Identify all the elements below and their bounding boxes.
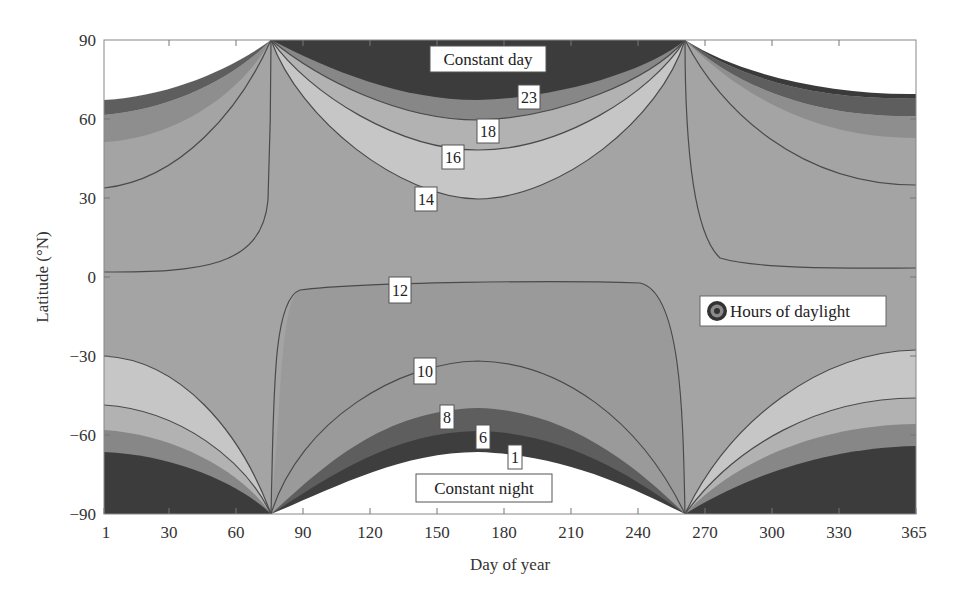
svg-text:Constant night: Constant night — [434, 479, 534, 498]
y-tick-label: −60 — [69, 426, 96, 445]
svg-text:8: 8 — [443, 409, 451, 426]
y-tick-label: 90 — [79, 31, 96, 50]
y-tick-label: −90 — [69, 505, 96, 524]
x-tick-label: 270 — [692, 523, 718, 542]
contour-label-1: 1 — [508, 445, 522, 469]
y-tick-label: 60 — [79, 110, 96, 129]
constant-night-label: Constant night — [416, 474, 552, 502]
x-tick-label: 300 — [759, 523, 785, 542]
svg-text:12: 12 — [392, 282, 408, 299]
svg-text:14: 14 — [418, 191, 434, 208]
svg-text:1: 1 — [511, 449, 519, 466]
x-tick-label: 30 — [161, 523, 178, 542]
x-tick-label: 1 — [102, 523, 111, 542]
svg-text:23: 23 — [521, 89, 537, 106]
x-tick-label: 120 — [357, 523, 383, 542]
svg-text:10: 10 — [417, 363, 433, 380]
x-tick-label: 90 — [295, 523, 312, 542]
legend-label: Hours of daylight — [730, 302, 850, 321]
y-tick-label: 0 — [88, 268, 97, 287]
contour-label-23: 23 — [518, 85, 540, 109]
legend: Hours of daylight — [700, 296, 886, 326]
y-tick-labels: 90 60 30 0 −30 −60 −90 — [69, 31, 96, 524]
x-tick-label: 210 — [558, 523, 584, 542]
contour-label-18: 18 — [477, 119, 499, 143]
x-axis-title: Day of year — [470, 555, 551, 574]
x-tick-label: 365 — [901, 523, 927, 542]
contour-label-8: 8 — [440, 405, 454, 429]
svg-text:16: 16 — [445, 149, 461, 166]
plot-area — [104, 40, 916, 514]
y-tick-label: 30 — [79, 189, 96, 208]
svg-text:18: 18 — [480, 123, 496, 140]
contour-label-16: 16 — [442, 145, 464, 169]
x-tick-label: 150 — [424, 523, 450, 542]
contour-label-6: 6 — [476, 425, 490, 449]
svg-text:Constant day: Constant day — [443, 50, 533, 69]
x-tick-label: 330 — [826, 523, 852, 542]
daylight-contour-chart: 1 30 60 90 120 150 180 210 240 270 300 3… — [0, 0, 953, 595]
legend-target-icon — [707, 301, 727, 321]
contour-label-14: 14 — [415, 187, 437, 211]
constant-day-label: Constant day — [430, 46, 546, 72]
x-tick-label: 240 — [625, 523, 651, 542]
contour-label-10: 10 — [414, 358, 436, 384]
x-tick-labels: 1 30 60 90 120 150 180 210 240 270 300 3… — [102, 523, 927, 542]
x-tick-label: 60 — [228, 523, 245, 542]
x-tick-label: 180 — [491, 523, 517, 542]
contour-label-12: 12 — [389, 277, 411, 303]
y-tick-label: −30 — [69, 347, 96, 366]
y-axis-title: Latitude (°N) — [33, 231, 52, 322]
svg-text:6: 6 — [479, 429, 487, 446]
